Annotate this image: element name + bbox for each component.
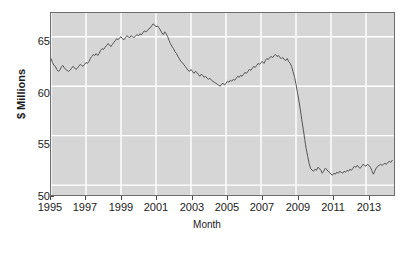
plot-svg — [51, 13, 394, 195]
x-tick-mark — [85, 196, 86, 200]
x-tick-text: 2011 — [313, 201, 353, 213]
x-tick-label-1999: 1999 — [101, 201, 141, 213]
x-tick-label-2007: 2007 — [242, 201, 282, 213]
x-tick-label-1997: 1997 — [65, 201, 105, 213]
y-tick-text: 50 — [24, 191, 50, 201]
y-tick-label-55: 55 — [22, 139, 50, 149]
y-tick-text: 55 — [24, 139, 50, 149]
x-tick-mark — [262, 196, 263, 200]
x-tick-label-2003: 2003 — [172, 201, 212, 213]
x-tick-text: 2007 — [242, 201, 282, 213]
x-tick-mark — [121, 196, 122, 200]
x-axis-title: Month — [0, 219, 414, 230]
x-tick-label-2011: 2011 — [313, 201, 353, 213]
data-line — [51, 24, 392, 175]
data-series-layer — [51, 24, 392, 175]
x-tick-text: 1995 — [30, 201, 70, 213]
chart-container: $ Millions 65 60 55 50 1995 1997 1999 20… — [0, 0, 414, 253]
plot-area — [50, 12, 395, 196]
x-tick-text: 2013 — [349, 201, 389, 213]
y-tick-text: 60 — [24, 88, 50, 98]
x-tick-mark — [227, 196, 228, 200]
x-tick-text: 1997 — [65, 201, 105, 213]
x-tick-text: 1999 — [101, 201, 141, 213]
y-tick-label-60: 60 — [22, 88, 50, 98]
x-tick-text: 2009 — [278, 201, 318, 213]
x-tick-text: 2003 — [172, 201, 212, 213]
x-tick-mark — [192, 196, 193, 200]
x-tick-mark — [50, 196, 51, 200]
x-tick-label-2001: 2001 — [136, 201, 176, 213]
x-tick-label-1995: 1995 — [30, 201, 70, 213]
x-tick-mark — [369, 196, 370, 200]
x-tick-mark — [333, 196, 334, 200]
y-tick-label-65: 65 — [22, 36, 50, 46]
y-tick-label-50: 50 — [22, 191, 50, 201]
x-tick-label-2005: 2005 — [207, 201, 247, 213]
y-tick-text: 65 — [24, 36, 50, 46]
x-tick-mark — [298, 196, 299, 200]
gridlines — [51, 13, 394, 195]
x-tick-mark — [156, 196, 157, 200]
x-tick-label-2013: 2013 — [349, 201, 389, 213]
x-tick-label-2009: 2009 — [278, 201, 318, 213]
x-tick-text: 2001 — [136, 201, 176, 213]
x-tick-text: 2005 — [207, 201, 247, 213]
